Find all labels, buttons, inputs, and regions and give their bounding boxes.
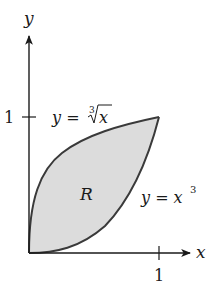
x-axis-label: x (196, 242, 206, 262)
y-axis-label: y (23, 8, 34, 28)
region-diagram: y x 1 1 y = 3 x y = x 3 R (0, 0, 222, 292)
svg-text:y =: y = (51, 108, 85, 127)
svg-text:3: 3 (190, 184, 196, 195)
region-r (29, 117, 159, 253)
region-label: R (79, 184, 93, 204)
y-tick-label: 1 (4, 108, 14, 127)
svg-text:y = x: y = x (140, 188, 183, 207)
x-tick-label: 1 (154, 266, 164, 285)
cubic-label: y = x 3 (140, 184, 196, 207)
svg-text:x: x (99, 108, 108, 127)
cube-root-label: y = 3 x (51, 105, 112, 127)
svg-text:3: 3 (89, 105, 95, 115)
